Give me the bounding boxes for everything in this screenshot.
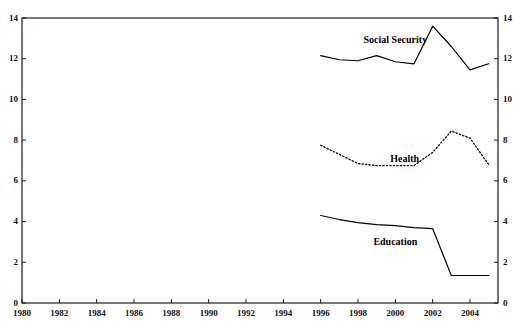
y-axis-label-left: 0 <box>0 299 18 308</box>
y-axis-label-right: 12 <box>503 54 512 63</box>
x-axis-label: 2002 <box>413 309 453 318</box>
y-axis-label-left: 14 <box>0 14 18 23</box>
series-annotation-health: Health <box>390 154 419 164</box>
y-axis-label-right: 14 <box>503 14 512 23</box>
x-axis-label: 2004 <box>450 309 490 318</box>
x-axis-label: 1980 <box>2 309 42 318</box>
line-chart: 0246810121402468101214198019821984198619… <box>0 0 530 329</box>
x-axis-label: 1998 <box>338 309 378 318</box>
x-axis-label: 1994 <box>263 309 303 318</box>
y-axis-label-left: 2 <box>0 258 18 267</box>
chart-plot-area <box>0 0 530 329</box>
chart-frame <box>22 18 498 303</box>
y-axis-label-right: 10 <box>503 95 512 104</box>
x-axis-label: 1992 <box>226 309 266 318</box>
y-axis-label-right: 4 <box>503 217 508 226</box>
x-axis-label: 1988 <box>151 309 191 318</box>
x-axis-label: 1984 <box>77 309 117 318</box>
y-axis-label-right: 6 <box>503 176 508 185</box>
y-axis-label-left: 6 <box>0 176 18 185</box>
x-axis-label: 1986 <box>114 309 154 318</box>
y-axis-label-left: 4 <box>0 217 18 226</box>
y-axis-label-right: 0 <box>503 299 508 308</box>
series-annotation-social-security: Social Security <box>364 35 428 45</box>
y-axis-label-left: 8 <box>0 136 18 145</box>
x-axis-label: 1982 <box>39 309 79 318</box>
y-axis-label-right: 8 <box>503 136 508 145</box>
x-axis-label: 2000 <box>375 309 415 318</box>
x-axis-label: 1990 <box>189 309 229 318</box>
x-axis-label: 1996 <box>301 309 341 318</box>
y-axis-label-left: 10 <box>0 95 18 104</box>
y-axis-label-right: 2 <box>503 258 508 267</box>
series-line-social-security <box>321 26 489 70</box>
y-axis-label-left: 12 <box>0 54 18 63</box>
series-annotation-education: Education <box>373 237 417 247</box>
